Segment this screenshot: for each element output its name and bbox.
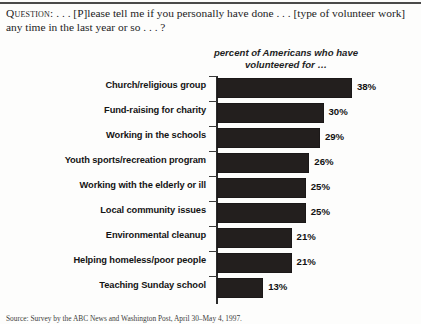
bar (217, 228, 292, 248)
bar (217, 128, 320, 148)
axis-tick (209, 276, 217, 277)
bar-value-label: 29% (325, 131, 344, 142)
axis-tick (209, 76, 217, 77)
chart-figure: Question: . . . [P]lease tell me if you … (0, 0, 421, 324)
bar-value-label: 25% (311, 206, 330, 217)
bar-category-label: Environmental cleanup (0, 230, 206, 240)
bar-chart: Church/religious group38%Fund-raising fo… (0, 76, 421, 308)
axis-tick (209, 201, 217, 202)
bar (217, 153, 309, 173)
question-body: . . . [P]lease tell me if you personally… (6, 7, 405, 33)
question-label: Question: (6, 7, 53, 19)
bar (217, 178, 306, 198)
axis-tick (209, 251, 217, 252)
bar-value-label: 21% (297, 231, 316, 242)
bar-category-label: Working with the elderly or ill (0, 180, 206, 190)
bar-row: Teaching Sunday school13% (0, 276, 421, 301)
bar-category-label: Fund-raising for charity (0, 105, 206, 115)
bar-value-label: 13% (268, 281, 287, 292)
question-text: Question: . . . [P]lease tell me if you … (6, 7, 412, 34)
bar-row: Working with the elderly or ill25% (0, 176, 421, 201)
source-footnote: Source: Survey by the ABC News and Washi… (6, 314, 406, 323)
bar-value-label: 25% (311, 181, 330, 192)
axis-tick (209, 226, 217, 227)
axis-tick (209, 151, 217, 152)
bar-row: Local community issues25% (0, 201, 421, 226)
bar-row: Working in the schools29% (0, 126, 421, 151)
bar-value-label: 38% (357, 81, 376, 92)
bar-row: Helping homeless/poor people21% (0, 251, 421, 276)
bar-value-label: 30% (329, 106, 348, 117)
bar (217, 103, 324, 123)
bar-row: Fund-raising for charity30% (0, 101, 421, 126)
bar (217, 203, 306, 223)
bar-row: Environmental cleanup21% (0, 226, 421, 251)
bar-row: Church/religious group38% (0, 76, 421, 101)
bar-category-label: Helping homeless/poor people (0, 255, 206, 265)
bar-category-label: Church/religious group (0, 80, 206, 90)
axis-tick (209, 176, 217, 177)
bar-category-label: Youth sports/recreation program (0, 155, 206, 165)
bar-value-label: 21% (297, 256, 316, 267)
bar-category-label: Local community issues (0, 205, 206, 215)
top-divider-rule (0, 2, 421, 4)
bar-value-label: 26% (314, 156, 333, 167)
bar (217, 78, 352, 98)
bar-category-label: Teaching Sunday school (0, 280, 206, 290)
bar (217, 278, 263, 298)
bar (217, 253, 292, 273)
axis-tick (209, 101, 217, 102)
chart-subtitle: percent of Americans who have volunteere… (196, 47, 376, 71)
axis-tick (209, 126, 217, 127)
bar-row: Youth sports/recreation program26% (0, 151, 421, 176)
bar-category-label: Working in the schools (0, 130, 206, 140)
